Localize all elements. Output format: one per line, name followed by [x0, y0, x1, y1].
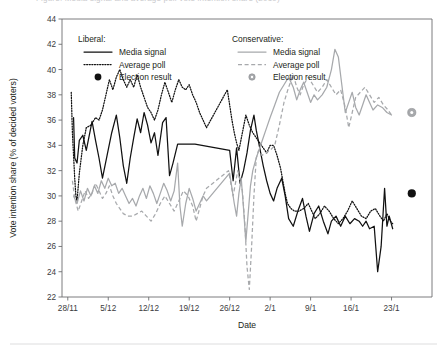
y-tick-label-24: 24: [47, 268, 57, 277]
x-tick-label-8: 23/1: [384, 304, 400, 313]
y-tick-label-36: 36: [47, 116, 57, 125]
figure-canvas: 22242628303234363840424428/115/1212/1219…: [0, 0, 447, 356]
y-tick-label-26: 26: [47, 242, 57, 251]
legend-swatch-liberal-election-result: [95, 74, 102, 81]
x-tick-label-7: 16/1: [343, 304, 359, 313]
legend-title-liberal: Liberal:: [78, 34, 105, 44]
y-tick-label-40: 40: [47, 66, 57, 75]
legend-group: Liberal:Media signalAverage pollElection…: [78, 34, 326, 82]
y-tick-label-22: 22: [47, 293, 57, 302]
legend-label-conservative-election-result: Election result: [273, 72, 326, 82]
y-tick-label-30: 30: [47, 192, 57, 201]
legend-label-conservative-media-signal: Media signal: [273, 47, 320, 57]
y-tick-label-32: 32: [47, 167, 57, 176]
x-tick-label-5: 2/1: [264, 304, 276, 313]
x-tick-label-6: 9/1: [305, 304, 317, 313]
y-tick-label-34: 34: [47, 141, 57, 150]
y-tick-label-38: 38: [47, 91, 57, 100]
series-group: [71, 49, 392, 289]
x-tick-label-3: 19/12: [179, 304, 200, 313]
y-axis-title: Vote intention share (% of decided voter…: [8, 78, 18, 238]
axis-group: 22242628303234363840424428/115/1212/1219…: [8, 15, 432, 330]
x-tick-label-4: 26/12: [219, 304, 240, 313]
legend-label-liberal-media-signal: Media signal: [119, 47, 166, 57]
x-tick-label-1: 5/12: [100, 304, 116, 313]
legend-swatch-conservative-election-result-hole: [251, 76, 253, 78]
x-tick-label-0: 28/11: [58, 304, 78, 313]
legend-title-conservative: Conservative:: [232, 34, 283, 44]
markers-group: [408, 108, 416, 197]
y-tick-label-44: 44: [47, 15, 57, 24]
y-tick-label-42: 42: [47, 40, 57, 49]
legend-label-liberal-average-poll: Average poll: [119, 60, 166, 70]
y-tick-label-28: 28: [47, 217, 57, 226]
series-conservative-average-poll-seg0: [72, 75, 391, 290]
marker-conservative-election-result-hole: [410, 111, 413, 114]
marker-liberal-election-result: [408, 189, 416, 197]
x-axis-title: Date: [238, 320, 256, 330]
x-tick-label-2: 12/12: [138, 304, 159, 313]
series-liberal-average-poll-seg0: [71, 70, 392, 224]
legend-label-liberal-election-result: Election result: [119, 72, 172, 82]
legend-label-conservative-average-poll: Average poll: [273, 60, 320, 70]
